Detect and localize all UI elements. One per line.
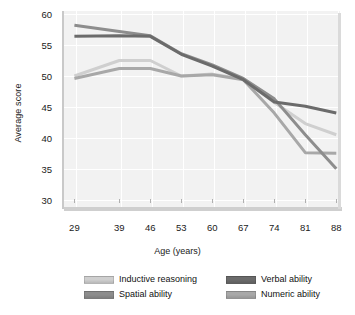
- x-axis-tick-label: 74: [269, 222, 280, 233]
- legend-label: Numeric ability: [261, 290, 320, 299]
- x-axis-tick-mark: [119, 199, 120, 203]
- line-chart: Average score 30354045505560 29394653606…: [0, 0, 355, 315]
- legend-label: Spatial ability: [119, 290, 172, 299]
- legend-swatch-icon: [226, 291, 256, 299]
- x-axis-tick-label: 29: [69, 222, 80, 233]
- x-axis-tick-mark: [305, 199, 306, 203]
- x-axis-tick-mark: [274, 199, 275, 203]
- x-axis-tick-label: 53: [176, 222, 187, 233]
- x-axis-tick-label: 67: [238, 222, 249, 233]
- chart-legend: Inductive reasoning Verbal ability Spati…: [84, 272, 346, 302]
- legend-item-inductive-reasoning: Inductive reasoning: [84, 272, 226, 287]
- x-axis-title: Age (years): [0, 246, 355, 256]
- x-axis-tick-mark: [336, 199, 337, 203]
- legend-label: Inductive reasoning: [119, 275, 197, 284]
- x-axis-tick-label: 46: [145, 222, 156, 233]
- x-axis-tick-labels: 293946536067748188: [0, 0, 355, 315]
- x-axis-tick-mark: [181, 199, 182, 203]
- x-axis-tick-mark: [212, 199, 213, 203]
- legend-swatch-icon: [84, 291, 114, 299]
- legend-label: Verbal ability: [261, 275, 312, 284]
- legend-item-spatial-ability: Spatial ability: [84, 287, 226, 302]
- x-axis-tick-mark: [243, 199, 244, 203]
- x-axis-tick-mark: [150, 199, 151, 203]
- legend-item-verbal-ability: Verbal ability: [226, 272, 346, 287]
- x-axis-tick-label: 39: [114, 222, 125, 233]
- x-axis-tick-label: 60: [207, 222, 218, 233]
- legend-swatch-icon: [84, 276, 114, 284]
- x-axis-tick-label: 81: [300, 222, 311, 233]
- x-axis-tick-label: 88: [331, 222, 342, 233]
- legend-item-numeric-ability: Numeric ability: [226, 287, 346, 302]
- x-axis-tick-mark: [74, 199, 75, 203]
- legend-swatch-icon: [226, 276, 256, 284]
